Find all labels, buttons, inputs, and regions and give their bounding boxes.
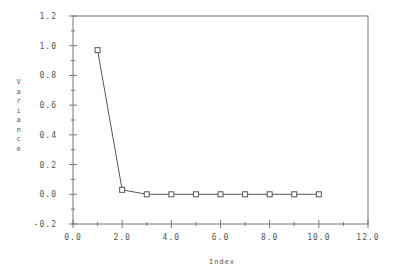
y-tick-label: -0.2 — [34, 220, 57, 229]
data-series — [95, 48, 321, 197]
y-title-letter: V — [16, 78, 21, 86]
y-tick-label: 1.2 — [40, 12, 57, 21]
data-point-marker — [218, 192, 223, 197]
y-axis-title: Variance — [16, 78, 21, 153]
data-point-marker — [193, 192, 198, 197]
x-axis-title: Index — [209, 258, 235, 266]
data-point-marker — [144, 192, 149, 197]
y-tick-label: 0.2 — [40, 161, 57, 170]
y-tick-label: 1.0 — [40, 42, 57, 51]
x-tick-label: 2.0 — [113, 233, 130, 242]
y-tick-label: 0.0 — [40, 190, 57, 199]
data-point-marker — [316, 192, 321, 197]
y-title-letter: a — [16, 88, 21, 96]
data-point-marker — [267, 192, 272, 197]
y-tick-label: 0.4 — [40, 131, 57, 140]
x-axis: 0.02.04.06.08.010.012.0 — [64, 220, 379, 242]
y-title-letter: a — [16, 116, 21, 124]
y-title-letter: e — [16, 145, 21, 153]
x-tick-label: 10.0 — [307, 233, 330, 242]
y-tick-label: 0.8 — [40, 71, 57, 80]
y-title-letter: i — [16, 107, 21, 115]
x-tick-label: 12.0 — [356, 233, 379, 242]
x-tick-label: 0.0 — [64, 233, 81, 242]
data-point-marker — [95, 48, 100, 53]
y-title-letter: r — [16, 97, 21, 105]
x-tick-label: 8.0 — [261, 233, 278, 242]
data-point-marker — [120, 187, 125, 192]
x-tick-label: 6.0 — [212, 233, 229, 242]
data-point-marker — [243, 192, 248, 197]
y-tick-label: 0.6 — [40, 101, 57, 110]
y-title-letter: n — [16, 126, 21, 134]
variance-chart: -0.20.00.20.40.60.81.01.2 0.02.04.06.08.… — [0, 0, 393, 276]
series-line — [98, 50, 319, 194]
y-axis: -0.20.00.20.40.60.81.01.2 — [34, 12, 77, 229]
y-title-letter: c — [16, 135, 21, 143]
x-tick-label: 4.0 — [163, 233, 180, 242]
data-point-marker — [169, 192, 174, 197]
data-point-marker — [292, 192, 297, 197]
